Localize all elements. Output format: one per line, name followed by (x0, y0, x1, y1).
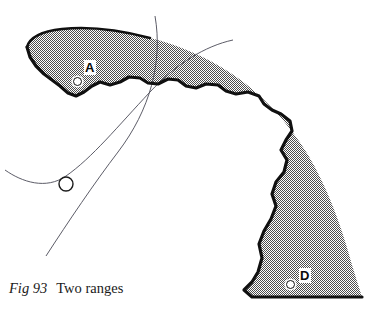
fix-intersection-marker (59, 177, 73, 191)
figure-number: Fig 93 (9, 280, 47, 296)
fix-circle (59, 177, 73, 191)
caption-text: Two ranges (56, 280, 123, 296)
shaded-range-band (27, 28, 362, 297)
point-marker-d (286, 280, 295, 289)
figure-caption: Fig 93Two ranges (9, 281, 123, 297)
point-label-d: D (299, 268, 311, 283)
figure-two-ranges: A D Fig 93Two ranges (0, 0, 378, 310)
point-label-a: A (84, 60, 96, 75)
band-fill (27, 28, 362, 297)
map-diagram (0, 0, 378, 310)
point-marker-a (73, 77, 82, 86)
